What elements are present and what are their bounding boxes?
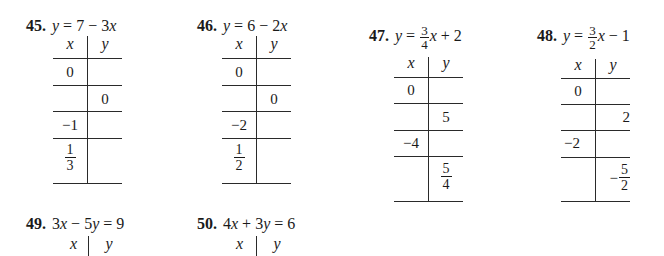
cell-x-fraction: 12 bbox=[222, 143, 256, 173]
problem-number: 45. bbox=[26, 17, 46, 34]
problem-48-title: 48.y = 32x − 1 bbox=[537, 24, 630, 51]
problem-47-title: 47.y = 34x + 2 bbox=[369, 24, 462, 51]
cell-y: 2 bbox=[598, 109, 630, 125]
row-divider bbox=[222, 85, 291, 86]
cell-x: 0 bbox=[222, 64, 256, 80]
column-header-x: x bbox=[60, 236, 87, 252]
column-divider bbox=[88, 236, 89, 256]
column-header-x: x bbox=[53, 36, 87, 52]
row-divider bbox=[394, 103, 463, 104]
cell-x: −2 bbox=[561, 135, 598, 151]
column-header-y: y bbox=[596, 57, 630, 73]
cell-y-fraction: −52 bbox=[596, 163, 630, 193]
column-header-x: x bbox=[394, 55, 428, 71]
row-divider bbox=[394, 77, 463, 78]
equation: y = 6 − 2x bbox=[223, 17, 287, 34]
problem-number: 48. bbox=[537, 27, 557, 44]
row-divider bbox=[53, 138, 122, 139]
equation: y = 34x + 2 bbox=[395, 27, 462, 44]
problem-46-title: 46.y = 6 − 2x bbox=[197, 17, 287, 35]
row-divider bbox=[394, 130, 463, 131]
row-divider bbox=[222, 138, 291, 139]
equation: y = 7 − 3x bbox=[52, 17, 116, 34]
cell-x: 0 bbox=[561, 83, 595, 99]
row-divider bbox=[561, 201, 630, 202]
column-header-y: y bbox=[260, 236, 294, 252]
cell-y: 0 bbox=[257, 91, 291, 107]
column-header-y: y bbox=[92, 236, 126, 252]
problem-number: 49. bbox=[26, 215, 46, 232]
problem-number: 46. bbox=[197, 17, 217, 34]
column-divider bbox=[256, 236, 257, 256]
equation: 4x + 3y = 6 bbox=[223, 215, 295, 232]
cell-x: 0 bbox=[53, 64, 87, 80]
column-header-y: y bbox=[429, 55, 463, 71]
row-divider bbox=[394, 156, 463, 157]
coefficient-fraction: 34 bbox=[420, 24, 429, 51]
row-divider bbox=[561, 104, 630, 105]
row-divider bbox=[561, 78, 630, 79]
row-divider bbox=[222, 183, 291, 184]
problem-number: 47. bbox=[369, 27, 389, 44]
equation: 3x − 5y = 9 bbox=[52, 215, 124, 232]
problem-49-title: 49.3x − 5y = 9 bbox=[26, 215, 124, 233]
column-header-y: y bbox=[88, 36, 122, 52]
column-header-x: x bbox=[561, 57, 595, 73]
column-header-x: x bbox=[226, 236, 253, 252]
cell-x: −2 bbox=[222, 117, 256, 133]
coefficient-fraction: 32 bbox=[588, 24, 597, 51]
row-divider bbox=[53, 85, 122, 86]
row-divider bbox=[53, 183, 122, 184]
column-header-y: y bbox=[257, 36, 291, 52]
problem-45-title: 45.y = 7 − 3x bbox=[26, 17, 116, 35]
equation: y = 32x − 1 bbox=[563, 27, 630, 44]
cell-x: 0 bbox=[394, 82, 428, 98]
row-divider bbox=[222, 58, 291, 59]
cell-x: −4 bbox=[394, 135, 428, 151]
row-divider bbox=[561, 130, 630, 131]
row-divider bbox=[53, 111, 122, 112]
cell-y-fraction: 54 bbox=[429, 162, 463, 192]
cell-x-fraction: 13 bbox=[53, 143, 87, 173]
problem-50-title: 50.4x + 3y = 6 bbox=[197, 215, 295, 233]
row-divider bbox=[394, 201, 463, 202]
row-divider bbox=[53, 58, 122, 59]
cell-x: −1 bbox=[53, 117, 87, 133]
cell-y: 0 bbox=[88, 91, 122, 107]
row-divider bbox=[561, 157, 630, 158]
problem-number: 50. bbox=[197, 215, 217, 232]
row-divider bbox=[222, 111, 291, 112]
cell-y: 5 bbox=[429, 109, 463, 125]
column-header-x: x bbox=[222, 36, 256, 52]
